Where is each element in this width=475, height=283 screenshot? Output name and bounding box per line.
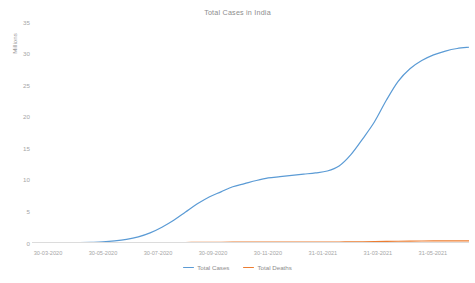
legend-item[interactable]: Total Cases: [183, 264, 229, 271]
legend-swatch-icon: [183, 267, 194, 268]
series-line-total-cases: [32, 47, 469, 243]
legend-label: Total Cases: [197, 264, 229, 271]
x-tick-label: 31-01-2021: [309, 250, 338, 256]
y-axis-tick-labels: 05101520253035: [0, 0, 30, 283]
x-tick-label: 30-05-2020: [89, 250, 118, 256]
chart-container: Total Cases in India Millions 0510152025…: [0, 0, 475, 283]
y-tick-label: 5: [4, 208, 30, 215]
chart-title: Total Cases in India: [0, 8, 475, 17]
y-tick-label: 20: [4, 113, 30, 120]
x-tick-label: 30-09-2020: [199, 250, 228, 256]
y-tick-label: 30: [4, 50, 30, 57]
y-tick-label: 10: [4, 176, 30, 183]
plot-area: [32, 22, 469, 243]
plot-svg: [32, 22, 469, 243]
series-group: [32, 47, 469, 243]
y-tick-label: 35: [4, 19, 30, 26]
x-tick-label: 31-03-2021: [364, 250, 393, 256]
x-axis-tick-labels: 30-03-202030-05-202030-07-202030-09-2020…: [0, 250, 475, 262]
x-tick-label: 30-11-2020: [254, 250, 282, 256]
legend-label: Total Deaths: [257, 264, 291, 271]
x-tick-label: 30-07-2020: [144, 250, 173, 256]
chart-legend: Total CasesTotal Deaths: [0, 264, 475, 271]
x-axis-line: [32, 242, 469, 243]
y-tick-label: 25: [4, 82, 30, 89]
x-tick-label: 31-05-2021: [419, 250, 448, 256]
legend-item[interactable]: Total Deaths: [243, 264, 291, 271]
y-tick-label: 0: [4, 240, 30, 247]
x-tick-label: 30-03-2020: [34, 250, 63, 256]
y-tick-label: 15: [4, 145, 30, 152]
legend-swatch-icon: [243, 267, 254, 268]
